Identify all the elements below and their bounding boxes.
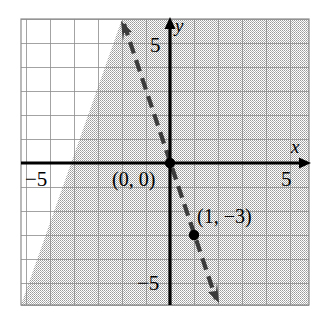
y-axis-tick-label-neg5: −5 xyxy=(137,271,159,295)
second-point-marker xyxy=(189,230,199,240)
x-axis-name-label: x xyxy=(290,136,300,157)
origin-point-marker xyxy=(165,158,175,168)
second-point-label: (1, −3) xyxy=(197,205,252,228)
y-axis-tick-label-pos5: 5 xyxy=(150,33,161,57)
x-axis-tick-label-neg5: −5 xyxy=(25,167,47,191)
coordinate-plane-graph: −5 5 5 −5 x y (0, 0) (1, −3) xyxy=(0,0,333,332)
coordinate-plane-figure: −5 5 5 −5 x y (0, 0) (1, −3) xyxy=(0,0,333,332)
y-axis-name-label: y xyxy=(173,15,184,36)
origin-point-label: (0, 0) xyxy=(112,168,155,191)
x-axis-tick-label-pos5: 5 xyxy=(281,167,292,191)
